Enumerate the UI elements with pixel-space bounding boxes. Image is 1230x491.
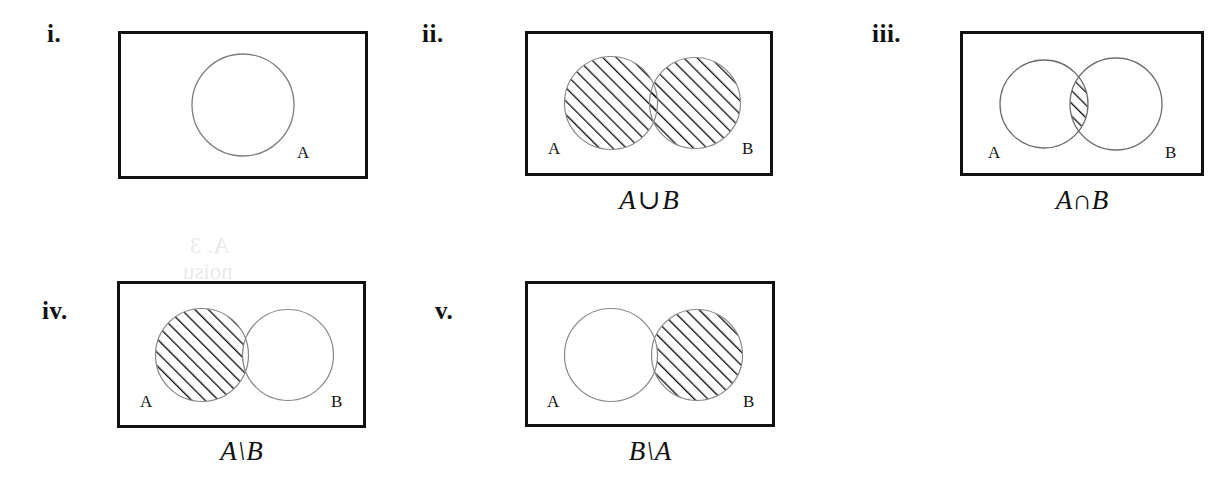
panel-ii-caption-left: A xyxy=(619,185,636,215)
panel-v-label-b: B xyxy=(743,393,754,410)
panel-v-caption-right: A xyxy=(655,436,672,466)
panel-iv: iv. A B A\B xyxy=(0,250,400,491)
panel-ii-caption-right: B xyxy=(662,185,679,215)
panel-v-label-a: A xyxy=(547,393,559,410)
panel-iii-caption-right: B xyxy=(1092,185,1109,215)
panel-iii-caption-left: A xyxy=(1056,185,1073,215)
panel-v-caption-left: B xyxy=(629,436,646,466)
panel-ii-label-a: A xyxy=(548,140,560,157)
panel-i: i. A xyxy=(0,0,400,240)
panel-iv-caption: A\B xyxy=(117,438,366,465)
panel-iii-caption-operator: ∩ xyxy=(1072,187,1092,214)
panel-ii-caption: A∪B xyxy=(525,187,773,214)
panel-ii-caption-operator: ∪ xyxy=(636,187,663,214)
venn-figure: A. 3 noisu i. A ii. xyxy=(0,0,1230,491)
panel-i-circle-a xyxy=(192,54,294,156)
panel-iii-caption: A∩B xyxy=(960,187,1204,214)
panel-ii-shaded-union xyxy=(565,57,741,150)
panel-iv-caption-operator: \ xyxy=(237,438,247,465)
panel-v-caption-operator: \ xyxy=(645,438,655,465)
panel-iii-label-b: B xyxy=(1165,144,1176,161)
panel-v-shaded-b-minus-a xyxy=(510,260,800,460)
panel-v-caption: B\A xyxy=(525,438,775,465)
panel-iv-caption-left: A xyxy=(220,436,237,466)
panel-iii: iii. A B A∩B xyxy=(840,0,1230,240)
panel-v: v. A B B\A xyxy=(410,250,830,491)
panel-iv-shaded-a-minus-b xyxy=(100,260,380,460)
panel-ii-label-b: B xyxy=(742,140,753,157)
panel-iii-label-a: A xyxy=(988,144,1000,161)
panel-iv-caption-right: B xyxy=(246,436,263,466)
panel-ii: ii. A B A∪B xyxy=(410,0,830,240)
panel-i-diagram xyxy=(0,0,400,240)
panel-iv-label-b: B xyxy=(331,393,342,410)
panel-i-label-a: A xyxy=(297,144,309,161)
panel-iv-label-a: A xyxy=(140,393,152,410)
